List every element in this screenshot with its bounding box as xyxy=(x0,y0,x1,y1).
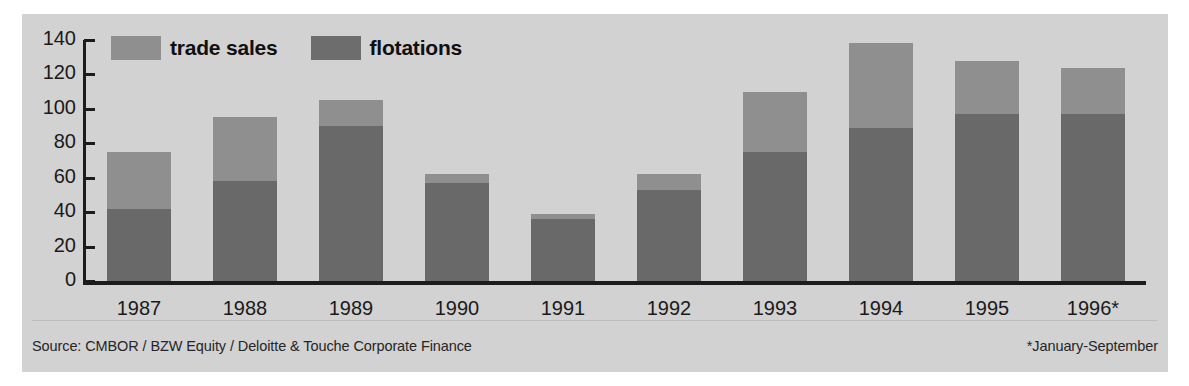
x-axis-label-1989: 1989 xyxy=(291,297,411,320)
bar-segment-flotations xyxy=(531,219,595,281)
bar-segment-trade-sales xyxy=(107,152,171,209)
y-axis-tick xyxy=(84,108,95,111)
bar-segment-trade-sales xyxy=(955,61,1019,114)
x-axis-label-1987: 1987 xyxy=(79,297,199,320)
trade-sales-swatch-icon xyxy=(111,36,161,60)
y-axis-tick-label: 80 xyxy=(22,130,76,153)
y-axis-tick xyxy=(84,39,95,42)
y-axis-tick-label: 100 xyxy=(22,96,76,119)
y-axis-tick xyxy=(84,73,95,76)
bar-1990 xyxy=(425,174,489,281)
y-axis-tick-label: 40 xyxy=(22,199,76,222)
plot-area: 020406080100120140 198719881989199019911… xyxy=(22,14,1168,372)
bar-1989 xyxy=(319,100,383,281)
bar-1992 xyxy=(637,174,701,281)
legend-label-flotations: flotations xyxy=(370,36,463,60)
x-axis-label-1991: 1991 xyxy=(503,297,623,320)
x-axis-label-1994: 1994 xyxy=(821,297,941,320)
y-axis-tick xyxy=(84,280,95,283)
x-axis-label-1988: 1988 xyxy=(185,297,305,320)
bar-segment-flotations xyxy=(319,126,383,281)
x-axis-label-1996: 1996* xyxy=(1033,297,1153,320)
bar-segment-flotations xyxy=(743,152,807,281)
source-text: Source: CMBOR / BZW Equity / Deloitte & … xyxy=(32,338,472,354)
chart-panel: 020406080100120140 198719881989199019911… xyxy=(22,14,1168,372)
chart-figure: 020406080100120140 198719881989199019911… xyxy=(0,0,1189,386)
bar-1987 xyxy=(107,152,171,281)
bar-segment-flotations xyxy=(425,183,489,281)
bar-segment-trade-sales xyxy=(1061,68,1125,114)
bar-segment-flotations xyxy=(107,209,171,281)
bar-segment-trade-sales xyxy=(849,43,913,127)
legend-label-trade-sales: trade sales xyxy=(170,36,278,60)
x-axis-line xyxy=(83,281,1146,285)
bar-segment-trade-sales xyxy=(637,174,701,189)
bar-segment-trade-sales xyxy=(319,100,383,126)
y-axis-tick-label: 140 xyxy=(22,27,76,50)
y-axis-tick xyxy=(84,177,95,180)
x-axis-label-1993: 1993 xyxy=(715,297,835,320)
footnote-text: *January-September xyxy=(1027,338,1158,354)
bar-1994 xyxy=(849,43,913,281)
y-axis-tick xyxy=(84,211,95,214)
chart-legend: trade sales flotations xyxy=(111,36,462,60)
bar-segment-trade-sales xyxy=(213,117,277,181)
x-axis-label-1992: 1992 xyxy=(609,297,729,320)
bar-segment-flotations xyxy=(1061,114,1125,281)
chart-footer: Source: CMBOR / BZW Equity / Deloitte & … xyxy=(32,330,1158,362)
x-axis-label-1995: 1995 xyxy=(927,297,1047,320)
y-axis-tick-label: 0 xyxy=(22,268,76,291)
flotations-swatch-icon xyxy=(311,36,361,60)
footer-divider xyxy=(32,320,1158,321)
bar-1988 xyxy=(213,117,277,281)
y-axis-tick xyxy=(84,142,95,145)
bar-segment-flotations xyxy=(955,114,1019,281)
y-axis-tick-label: 120 xyxy=(22,61,76,84)
y-axis-tick-label: 60 xyxy=(22,165,76,188)
bar-1991 xyxy=(531,214,595,281)
legend-item-flotations: flotations xyxy=(311,36,463,60)
bar-segment-flotations xyxy=(849,128,913,281)
bar-1996 xyxy=(1061,68,1125,281)
x-axis-label-1990: 1990 xyxy=(397,297,517,320)
y-axis-tick xyxy=(84,246,95,249)
legend-item-trade-sales: trade sales xyxy=(111,36,278,60)
bar-1993 xyxy=(743,92,807,281)
bar-1995 xyxy=(955,61,1019,281)
bar-segment-flotations xyxy=(213,181,277,281)
bar-segment-flotations xyxy=(637,190,701,281)
bar-segment-trade-sales xyxy=(743,92,807,152)
bar-segment-trade-sales xyxy=(425,174,489,183)
y-axis-tick-label: 20 xyxy=(22,234,76,257)
